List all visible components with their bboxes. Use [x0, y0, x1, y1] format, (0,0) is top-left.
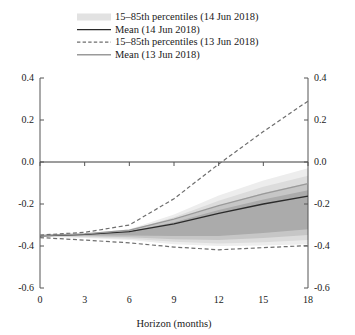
y-tick-label-right: -0.2 [314, 198, 330, 209]
chart-svg: 15–85th percentiles (14 Jun 2018)Mean (1… [0, 0, 355, 335]
fan-chart: 15–85th percentiles (14 Jun 2018)Mean (1… [0, 0, 355, 335]
x-axis-title: Horizon (months) [137, 318, 212, 330]
y-tick-label-left: -0.6 [18, 282, 34, 293]
y-tick-label-right: 0.2 [314, 114, 327, 125]
x-tick-label: 18 [303, 294, 313, 305]
legend-label: 15–85th percentiles (13 Jun 2018) [115, 36, 259, 48]
x-tick-label: 3 [82, 294, 87, 305]
y-tick-label-left: 0.0 [22, 156, 35, 167]
legend-label: 15–85th percentiles (14 Jun 2018) [115, 11, 259, 23]
x-tick-label: 12 [214, 294, 224, 305]
y-tick-label-left: 0.4 [22, 72, 35, 83]
legend-swatch [77, 14, 111, 21]
legend-label: Mean (13 Jun 2018) [115, 49, 200, 61]
chart-legend: 15–85th percentiles (14 Jun 2018)Mean (1… [77, 11, 259, 61]
y-tick-label-right: -0.6 [314, 282, 330, 293]
y-tick-label-left: -0.2 [18, 198, 34, 209]
y-tick-label-right: 0.4 [314, 72, 327, 83]
legend-label: Mean (14 Jun 2018) [115, 24, 200, 36]
y-tick-label-left: -0.4 [18, 240, 34, 251]
x-tick-label: 15 [258, 294, 268, 305]
y-tick-label-right: 0.0 [314, 156, 327, 167]
y-tick-label-right: -0.4 [314, 240, 330, 251]
x-tick-label: 6 [127, 294, 132, 305]
x-tick-label: 9 [172, 294, 177, 305]
x-tick-label: 0 [38, 294, 43, 305]
y-tick-label-left: 0.2 [22, 114, 35, 125]
